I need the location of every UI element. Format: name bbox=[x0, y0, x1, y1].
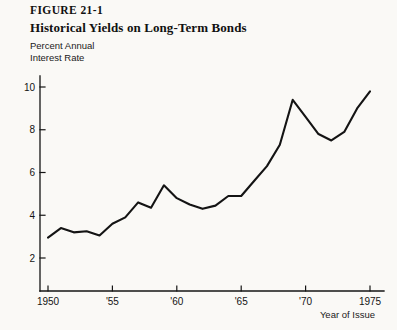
data-series-line bbox=[48, 91, 370, 237]
y-axis-tick-label: 2 bbox=[29, 253, 35, 264]
y-axis-tick-label: 6 bbox=[29, 167, 35, 178]
x-axis-title: Year of Issue bbox=[320, 309, 375, 320]
x-axis-tick-label: 1950 bbox=[37, 296, 60, 307]
y-axis-tick-label: 10 bbox=[24, 82, 36, 93]
x-axis-tick-label: 1975 bbox=[359, 296, 382, 307]
y-axis-tick-label: 4 bbox=[29, 210, 35, 221]
line-chart-plot: 2468101950'55'60'65'701975 bbox=[0, 0, 397, 330]
x-axis-tick-label: '55 bbox=[106, 296, 119, 307]
x-axis-tick-label: '60 bbox=[170, 296, 183, 307]
figure-container: FIGURE 21-1 Historical Yields on Long-Te… bbox=[0, 0, 397, 330]
x-axis-tick-label: '70 bbox=[299, 296, 312, 307]
x-axis-tick-label: '65 bbox=[235, 296, 248, 307]
y-axis-tick-label: 8 bbox=[29, 124, 35, 135]
